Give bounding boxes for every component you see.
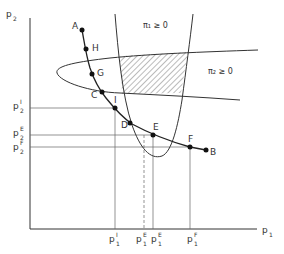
tick-sup: E <box>158 232 162 238</box>
point-B <box>204 148 209 153</box>
x-axis-label-base: p <box>262 225 268 235</box>
tick-sub: 1 <box>116 241 120 247</box>
label-H: H <box>92 44 99 53</box>
x-tick-p1-E: pE1 <box>151 235 157 244</box>
tick-sub: 1 <box>143 241 147 247</box>
x-tick-p1-I: pI1 <box>109 235 115 244</box>
y-axis-label: p2 <box>6 10 12 19</box>
tick-sub: 1 <box>158 241 162 247</box>
tick-sup: E <box>20 126 24 132</box>
point-C <box>100 90 105 95</box>
tick-base: p <box>13 142 19 152</box>
y-tick-p2-E: pE2 <box>13 129 19 138</box>
label-E: E <box>153 123 159 132</box>
label-F: F <box>188 135 193 144</box>
tick-sup: I <box>20 99 22 105</box>
x-axis-label: p1 <box>262 226 268 235</box>
label-C: C <box>91 91 97 100</box>
y-tick-p2-F: pF2 <box>13 143 19 152</box>
label-D: D <box>121 121 128 130</box>
tick-base: p <box>13 128 19 138</box>
tick-sup: E <box>143 232 147 238</box>
tick-sub: 1 <box>194 241 198 247</box>
tick-base: p <box>187 234 193 244</box>
point-I <box>113 106 118 111</box>
pi2-region-label: π₂ ≥ 0 <box>208 68 233 76</box>
x-tick-p1-F: pF1 <box>187 235 193 244</box>
y-axis-label-sub: 2 <box>13 16 17 22</box>
point-H <box>84 47 89 52</box>
tick-base: p <box>151 234 157 244</box>
tick-sub: 2 <box>20 149 24 155</box>
tick-sup: F <box>194 232 197 238</box>
label-I: I <box>114 96 117 105</box>
point-G <box>90 72 95 77</box>
tick-base: p <box>13 101 19 111</box>
point-D <box>128 121 133 126</box>
y-tick-p2-I: pI2 <box>13 102 19 111</box>
x-axis-label-sub: 1 <box>269 232 273 238</box>
label-A: A <box>72 22 78 31</box>
tick-sup: F <box>20 140 23 146</box>
y-axis-label-base: p <box>6 9 12 19</box>
pi1-region-label: π₁ ≥ 0 <box>143 22 168 30</box>
point-E <box>151 133 156 138</box>
label-B: B <box>210 148 216 157</box>
label-G: G <box>97 69 104 78</box>
tick-base: p <box>109 234 115 244</box>
x-tick-p1-E-dashed: pE1 <box>136 235 142 244</box>
price-diagram <box>0 0 284 254</box>
feasible-region-hatch <box>120 52 188 94</box>
point-F <box>188 145 193 150</box>
tick-base: p <box>136 234 142 244</box>
point-A <box>80 28 85 33</box>
tick-sup: I <box>116 232 118 238</box>
tick-sub: 2 <box>20 108 24 114</box>
